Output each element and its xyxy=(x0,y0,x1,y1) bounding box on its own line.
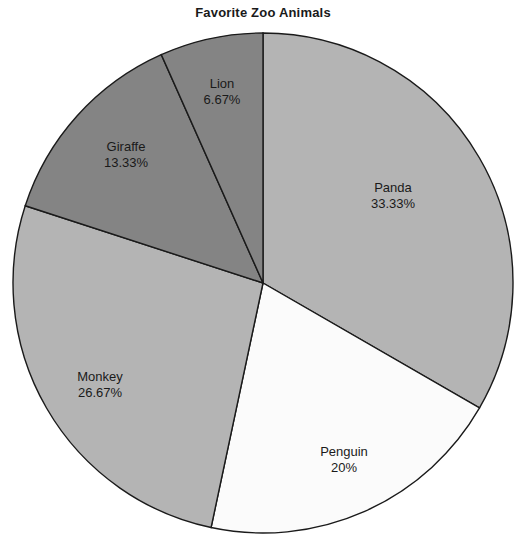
pie-label-panda: Panda33.33% xyxy=(371,180,416,211)
pie-label-giraffe: Giraffe13.33% xyxy=(104,139,149,170)
pie-chart-canvas: Panda33.33%Penguin20%Monkey26.67%Giraffe… xyxy=(0,0,526,556)
pie-label-monkey: Monkey26.67% xyxy=(77,369,123,400)
pie-chart-figure: Favorite Zoo Animals Panda33.33%Penguin2… xyxy=(0,0,526,556)
pie-slice-group xyxy=(13,33,513,533)
